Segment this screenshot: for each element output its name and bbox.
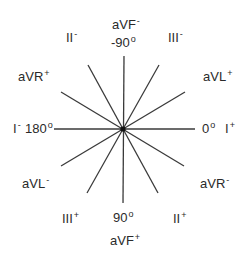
label-180-degrees: 180o — [25, 122, 53, 136]
label-iii-plus: III+ — [62, 212, 79, 226]
label-avr-plus: aVR+ — [18, 70, 50, 84]
label-i-minus: I- — [13, 122, 21, 136]
label-avf-plus: aVF+ — [110, 234, 140, 248]
center-point — [120, 126, 125, 131]
label-avf-minus: aVF- — [112, 18, 140, 32]
label-iii-minus: III- — [168, 31, 183, 45]
label-avl-plus: aVL+ — [203, 70, 232, 84]
label-minus-90-degrees: -90o — [111, 36, 136, 50]
label-avl-minus: aVL- — [22, 177, 49, 191]
label-ii-plus: II+ — [173, 212, 187, 226]
label-90-degrees: 90o — [113, 211, 133, 225]
label-0-degrees: 0o — [202, 122, 215, 136]
label-i-plus: I+ — [225, 122, 235, 136]
label-ii-minus: II- — [66, 31, 77, 45]
label-avr-minus: aVR- — [200, 177, 229, 191]
